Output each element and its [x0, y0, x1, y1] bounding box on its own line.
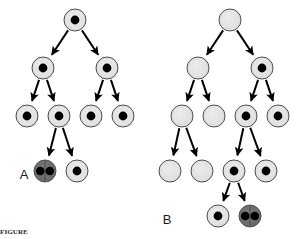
- cell-generation3-3-a: [80, 105, 102, 127]
- panel-label-b: B: [163, 212, 172, 227]
- cell-generation4-2-b: [191, 160, 213, 182]
- nucleus-icon: [103, 64, 112, 73]
- cell-generation2-left-b: [187, 57, 209, 79]
- cell-generation4-2-a: [66, 160, 88, 182]
- cell-root-cell-a: [64, 9, 86, 31]
- nucleus-icon: [71, 16, 80, 25]
- lineage-arrow: [238, 183, 244, 201]
- lineage-arrow: [223, 183, 229, 201]
- cell-generation4-dividing-a: [34, 160, 56, 182]
- cell-generation3-1-a: [16, 105, 38, 127]
- cell-generation4-1-b: [159, 160, 181, 182]
- cell-generation3-3-b: [235, 105, 257, 127]
- nucleus-icon: [73, 167, 82, 176]
- cell-body-icon: [171, 105, 193, 127]
- nucleus-icon: [241, 212, 250, 221]
- cell-body-icon: [219, 9, 241, 31]
- cell-generation4-4-b: [255, 160, 277, 182]
- nucleus-icon: [39, 64, 48, 73]
- lineage-arrow: [47, 80, 54, 101]
- nucleus-icon: [55, 112, 64, 121]
- cell-body-icon: [187, 57, 209, 79]
- nucleus-icon: [119, 112, 128, 121]
- lineage-arrow: [32, 80, 39, 101]
- nucleus-icon: [36, 167, 45, 176]
- cell-generation3-1-b: [171, 105, 193, 127]
- nodes-layer: [16, 9, 289, 227]
- nucleus-icon: [251, 212, 260, 221]
- nucleus-icon: [242, 112, 251, 121]
- nucleus-icon: [274, 112, 283, 121]
- lineage-arrow: [111, 80, 118, 101]
- figure-caption: FIGURE: [0, 228, 301, 236]
- cell-lineage-diagram: AB: [0, 0, 301, 239]
- lineage-arrow: [187, 80, 194, 101]
- lineage-arrow: [82, 30, 98, 54]
- cell-generation2-left-a: [32, 57, 54, 79]
- lineage-arrow: [173, 128, 179, 155]
- figure-root: AB FIGURE: [0, 0, 301, 239]
- lineage-arrow: [237, 30, 253, 54]
- cell-generation3-2-a: [48, 105, 70, 127]
- cell-generation3-4-b: [267, 105, 289, 127]
- cell-generation3-4-a: [112, 105, 134, 127]
- cell-generation4-3-b: [223, 160, 245, 182]
- lineage-arrow: [250, 128, 260, 156]
- nucleus-icon: [46, 167, 55, 176]
- lineage-arrow: [207, 30, 223, 54]
- lineage-arrow: [237, 128, 243, 155]
- lineage-arrow: [63, 128, 72, 156]
- cell-generation2-right-a: [96, 57, 118, 79]
- lineage-arrow: [96, 80, 103, 101]
- figure-caption-number: FIGURE: [0, 228, 28, 236]
- cell-generation2-right-b: [251, 57, 273, 79]
- panel-label-a: A: [20, 167, 29, 182]
- nucleus-icon: [23, 112, 32, 121]
- cell-generation5-1-b: [207, 205, 229, 227]
- nucleus-icon: [258, 64, 267, 73]
- cell-body-icon: [159, 160, 181, 182]
- lineage-arrow: [49, 128, 56, 155]
- lineage-arrow: [202, 80, 209, 101]
- lineage-arrow: [251, 80, 258, 101]
- cell-body-icon: [203, 105, 225, 127]
- cell-body-icon: [191, 160, 213, 182]
- nucleus-icon: [262, 167, 271, 176]
- nucleus-icon: [214, 212, 223, 221]
- lineage-arrow: [266, 80, 273, 101]
- cell-generation5-dividing-b: [239, 205, 261, 227]
- cell-generation3-2-b: [203, 105, 225, 127]
- nucleus-icon: [87, 112, 96, 121]
- nucleus-icon: [230, 167, 239, 176]
- lineage-arrow: [186, 128, 196, 156]
- cell-root-cell-b: [219, 9, 241, 31]
- lineage-arrow: [52, 30, 68, 54]
